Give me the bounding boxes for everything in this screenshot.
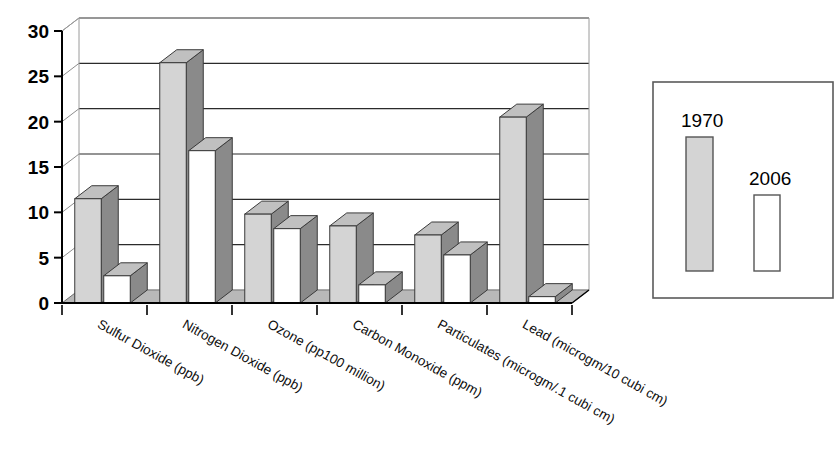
legend-swatch-2006 [754, 195, 780, 271]
bar-2006-1-front [104, 276, 131, 303]
y-tick-label-5: 5 [38, 248, 49, 269]
y-axis-ticklabels: 051015202530 [28, 21, 50, 314]
x-axis-ticks [62, 305, 572, 315]
bar-1970-4-front [330, 226, 357, 303]
bar-2006-3-front [274, 229, 301, 303]
legend-box [653, 82, 833, 298]
x-axis-categories: Sulfur Dioxide (ppb)Nitrogen Dioxide (pp… [95, 317, 670, 427]
bar-chart: 051015202530 Sulfur Dioxide (ppb)Nitroge… [0, 0, 840, 451]
chart-root: 051015202530 Sulfur Dioxide (ppb)Nitroge… [0, 0, 840, 451]
bar-2006-3[interactable] [274, 216, 318, 303]
bar-1970-5-front [415, 235, 442, 303]
y-tick-label-0: 0 [38, 293, 49, 314]
bar-1970-6-side [526, 104, 543, 303]
y-tick-label-25: 25 [28, 66, 50, 87]
y-tick-label-10: 10 [28, 202, 49, 223]
bar-2006-5-front [444, 255, 471, 303]
bar-2006-2[interactable] [189, 138, 233, 303]
gridline-connector-25 [62, 63, 79, 76]
bar-1970-3-front [245, 214, 272, 303]
bar-1970-2-front [160, 63, 187, 303]
legend-label-1970: 1970 [681, 110, 723, 131]
bar-1970-6[interactable] [500, 104, 544, 303]
legend-label-2006: 2006 [749, 168, 791, 189]
bar-1970-6-front [500, 117, 527, 303]
legend-swatch-1970 [686, 137, 713, 271]
gridline-connector-15 [62, 154, 79, 167]
bar-2006-2-front [189, 151, 216, 303]
legend: 19702006 [653, 82, 833, 298]
bar-2006-2-side [215, 138, 232, 303]
y-tick-label-20: 20 [28, 112, 49, 133]
bar-2006-3-side [300, 216, 317, 303]
bar-1970-1-front [75, 199, 102, 303]
y-tick-label-30: 30 [28, 21, 49, 42]
back-wall-connector-top [62, 18, 79, 31]
bar-2006-4-front [359, 285, 386, 303]
bar-series-group [75, 50, 573, 303]
category-label-6: Lead (microgm/10 cubi cm) [520, 317, 670, 409]
gridline-connector-20 [62, 109, 79, 122]
bar-2006-5[interactable] [444, 242, 488, 303]
y-tick-label-15: 15 [28, 157, 50, 178]
